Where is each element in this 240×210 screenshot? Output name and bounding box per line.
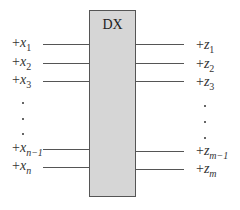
input-ellipsis-dot-2	[22, 118, 24, 120]
input-line-1	[43, 44, 90, 45]
output-line-3	[136, 81, 184, 82]
output-label-1: +z1	[196, 38, 214, 57]
input-label-n: +xn	[12, 159, 31, 178]
output-label-3: +z3	[196, 75, 214, 94]
output-label-m: +zm	[196, 162, 217, 181]
output-line-1	[136, 44, 184, 45]
input-line-n	[43, 167, 90, 168]
output-line-m	[136, 169, 184, 170]
input-line-2	[43, 63, 90, 64]
input-line-3	[43, 81, 90, 82]
output-ellipsis-dot-3	[204, 137, 206, 139]
output-ellipsis-dot-2	[204, 121, 206, 123]
output-line-m-1	[136, 151, 184, 152]
output-ellipsis-dot-1	[204, 105, 206, 107]
input-label-3: +x3	[12, 73, 31, 92]
output-line-2	[136, 63, 184, 64]
input-label-1: +x1	[12, 36, 31, 55]
block-label: DX	[90, 17, 135, 33]
input-line-n-1	[43, 149, 90, 150]
input-ellipsis-dot-3	[22, 133, 24, 135]
input-ellipsis-dot-1	[22, 102, 24, 104]
dx-block: DX	[89, 10, 136, 197]
